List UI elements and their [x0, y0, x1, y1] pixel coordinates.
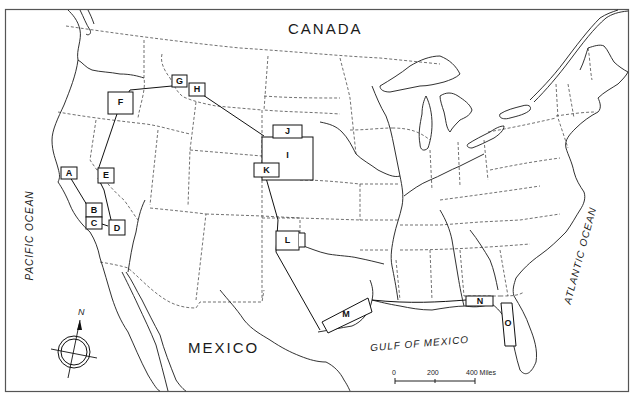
label-canada: CANADA — [288, 20, 363, 37]
study-area-label-h: H — [189, 84, 205, 94]
study-area-label-i: I — [262, 150, 313, 160]
label-mexico: MEXICO — [188, 339, 259, 356]
study-area-label-n: N — [472, 296, 488, 306]
compass-north-label: N — [78, 307, 85, 317]
scale-label-200: 200 — [427, 369, 439, 376]
us-map — [0, 0, 634, 396]
scale-label-400: 400 Miles — [466, 369, 496, 376]
study-area-label-g: G — [172, 76, 187, 86]
study-area-label-a: A — [61, 168, 77, 178]
study-area-label-b: B — [86, 205, 102, 215]
study-area-label-e: E — [98, 170, 114, 180]
study-area-label-k: K — [254, 165, 279, 175]
study-area-label-m: M — [338, 309, 354, 319]
map-frame — [6, 10, 629, 392]
study-area-label-c: C — [86, 218, 102, 228]
study-area-label-o: O — [501, 318, 515, 328]
study-area-label-d: D — [109, 223, 125, 233]
label-pacific-ocean: PACIFIC OCEAN — [24, 191, 35, 281]
study-area-label-l: L — [276, 235, 299, 245]
scale-label-0: 0 — [392, 369, 396, 376]
study-area-label-f: F — [108, 97, 133, 107]
study-area-label-j: J — [273, 126, 302, 136]
box-L-ext — [299, 233, 305, 247]
